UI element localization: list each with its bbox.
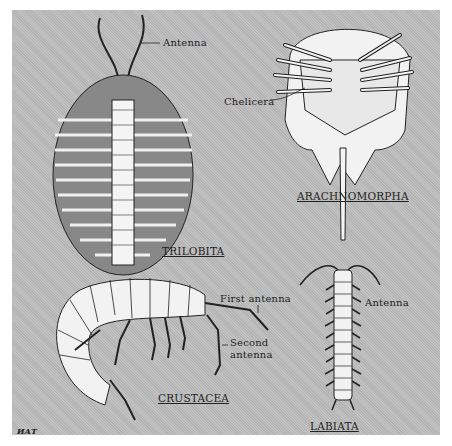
- trilobite-drawing: [53, 15, 193, 275]
- crustacea-title: CRUSTACEA: [158, 392, 229, 404]
- second-antenna-label-line2: antenna: [230, 349, 273, 360]
- trilobita-title: TRILOBITA: [162, 245, 224, 257]
- arachnomorpha-title: ARACHNOMORPHA: [297, 190, 409, 202]
- artist-signature: ИАТ: [17, 426, 37, 436]
- labiata-antenna-label: Antenna: [365, 297, 409, 308]
- horseshoe-crab-drawing: [270, 29, 412, 240]
- labiata-title: LABIATA: [310, 420, 359, 432]
- centipede-drawing: [300, 266, 380, 410]
- arthropod-drawings: [0, 0, 452, 446]
- chelicera-label: Chelicera: [224, 96, 274, 107]
- trilobita-antenna-label: Antenna: [163, 37, 207, 48]
- second-antenna-label-line1: Second: [230, 337, 268, 348]
- first-antenna-label: First antenna: [220, 293, 291, 304]
